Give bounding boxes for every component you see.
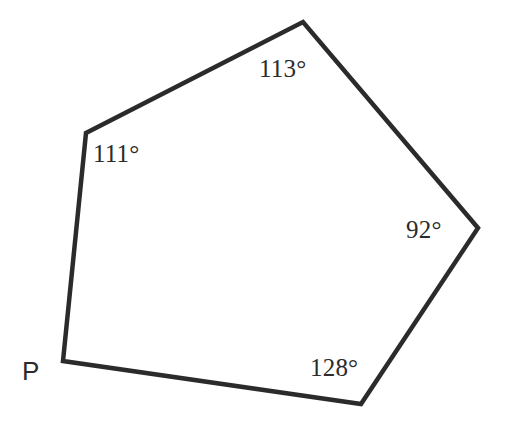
pentagon-diagram xyxy=(0,0,506,425)
geometry-figure: 111° 113° 92° 128° P xyxy=(0,0,506,425)
angle-label-111: 111° xyxy=(93,141,139,166)
angle-label-113: 113° xyxy=(259,56,306,81)
angle-label-128: 128° xyxy=(310,355,358,380)
vertex-label-p: P xyxy=(22,358,39,384)
angle-label-92: 92° xyxy=(406,217,442,242)
